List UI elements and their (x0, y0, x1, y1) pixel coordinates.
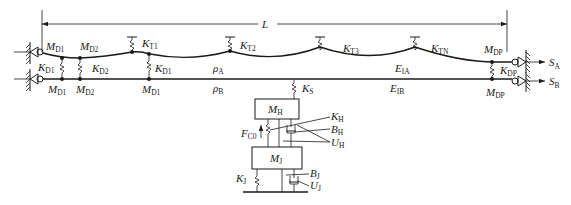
label-e-ia: EIA (394, 62, 410, 76)
length-label: L (261, 18, 268, 30)
label-kdp: KDP (499, 64, 517, 78)
top-spring-kt1 (127, 37, 137, 52)
dropper-spring-kd1-left (60, 59, 64, 78)
right-support-upper (512, 50, 545, 73)
label-lower-mdp: MDP (485, 86, 505, 100)
label-kd1-mid: KD1 (154, 62, 172, 76)
output-label-sb: SB (549, 75, 560, 90)
label-kj: KJ (235, 172, 246, 186)
label-kd1-left: KD1 (37, 61, 55, 75)
dropper-spring-kdp (490, 63, 494, 78)
contact-spring-ks (292, 80, 296, 99)
label-kt1: KT1 (141, 37, 158, 51)
label-ktn: KTN (430, 42, 449, 56)
label-upper-md1: MD1 (45, 40, 65, 54)
label-lower-md1: MD1 (47, 83, 67, 97)
top-spring-kt2 (225, 37, 235, 51)
label-ks: KS (301, 82, 314, 96)
label-uh: UH (331, 136, 345, 150)
label-kh: KH (330, 110, 344, 124)
frame-spring-kj (255, 169, 259, 192)
pantograph-assembly: KS MH FC0 KH BH UH MJ KJ (235, 80, 345, 193)
right-support-lower (512, 72, 545, 92)
cable-system-diagram: L (0, 0, 571, 205)
output-label-sa: SA (549, 56, 561, 71)
label-lower-md2: MD2 (75, 83, 95, 97)
head-spring-kh (266, 119, 270, 147)
label-e-ib: EIB (389, 82, 404, 96)
label-rho-b: ρB (212, 82, 223, 96)
label-kt3: KT3 (342, 42, 359, 56)
dropper-spring-kd2 (78, 59, 82, 78)
label-fc0: FC0 (240, 127, 257, 141)
label-uj: UJ (310, 179, 321, 193)
label-kt2: KT2 (239, 39, 256, 53)
label-upper-mdp: MDP (483, 43, 503, 57)
label-mj: MJ (269, 152, 282, 166)
label-bh: BH (331, 123, 344, 137)
label-mh: MH (267, 103, 283, 117)
label-lower-md1-mid: MD1 (141, 83, 161, 97)
dropper-spring-kd1-mid (147, 55, 151, 78)
label-rho-a: ρA (212, 62, 224, 76)
label-kd2: KD2 (91, 62, 109, 76)
label-upper-md2: MD2 (79, 40, 99, 54)
